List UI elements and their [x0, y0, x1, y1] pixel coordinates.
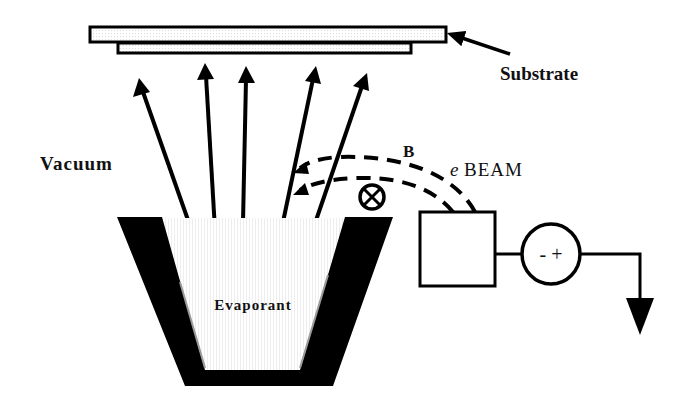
arrowhead-5-icon [353, 73, 369, 91]
vacuum-label: Vacuum [40, 153, 113, 174]
vapor-arrow-4 [283, 79, 313, 222]
field-into-page-icon [360, 185, 384, 209]
ebeam-evaporation-diagram: Substrate Vacuum B e BEAM Evaporant [0, 0, 686, 410]
arrowhead-3-icon [238, 66, 255, 83]
arrowhead-2-icon [197, 63, 214, 80]
substrate-label: Substrate [500, 63, 578, 84]
wire-supply-to-ground [580, 254, 640, 300]
ebeam-arrowhead-2-icon [293, 183, 309, 195]
electron-gun [420, 212, 495, 286]
substrate-pointer-arrow [462, 38, 510, 54]
vapor-arrowheads [133, 63, 369, 97]
substrate-plate [118, 43, 411, 53]
vapor-arrow-2 [206, 76, 215, 230]
arrowhead-1-icon [133, 78, 150, 97]
vapor-arrow-3 [243, 79, 246, 222]
magnetic-field-label: B [403, 142, 414, 161]
substrate [90, 27, 446, 53]
ground-arrow-icon [626, 298, 654, 335]
power-supply-polarity: - + [540, 243, 563, 265]
substrate-holder [90, 27, 446, 42]
ebeam-label: BEAM [464, 159, 523, 180]
evaporant-label: Evaporant [214, 297, 291, 313]
ebeam-prefix-label: e [450, 159, 458, 180]
arrowhead-4-icon [305, 66, 321, 84]
